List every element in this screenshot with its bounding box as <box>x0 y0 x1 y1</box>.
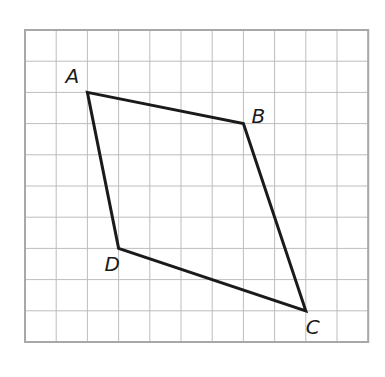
quadrilateral-abcd <box>87 92 305 310</box>
vertex-label-b: B <box>251 106 265 126</box>
vertex-label-d: D <box>105 254 120 274</box>
vertex-label-a: A <box>65 66 79 86</box>
diagram-canvas <box>0 0 385 377</box>
vertex-label-c: C <box>306 317 320 337</box>
grid-diagram: A B C D <box>0 0 385 377</box>
